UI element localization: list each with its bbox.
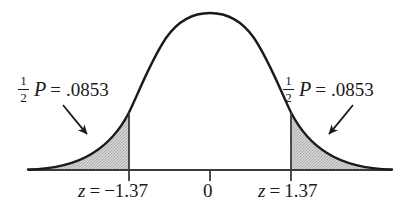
x-tick-label-zero: 0 xyxy=(203,181,213,200)
z-variable: z xyxy=(258,180,265,201)
z-value: 1.37 xyxy=(284,180,317,201)
one-half-fraction: 1 2 xyxy=(18,74,29,104)
equals-sign: = xyxy=(269,180,280,201)
z-value: 0 xyxy=(203,180,213,201)
equals-sign: = xyxy=(89,180,100,201)
fraction-denominator: 2 xyxy=(284,91,293,105)
fraction-numerator: 1 xyxy=(284,74,293,88)
z-value: −1.37 xyxy=(104,180,148,201)
left-leader-arrow-icon xyxy=(63,105,87,134)
probability-value: .0853 xyxy=(331,80,374,99)
fraction-numerator: 1 xyxy=(19,74,28,88)
equals-sign: = xyxy=(315,80,326,99)
one-half-fraction: 1 2 xyxy=(283,74,294,104)
right-leader-arrow-icon xyxy=(329,105,353,134)
right-tail-probability-label: 1 2 P = .0853 xyxy=(283,74,374,104)
normal-curve-figure: 1 2 P = .0853 1 2 P = .0853 z=−1.37 0 z=… xyxy=(0,0,409,208)
p-variable: P xyxy=(34,79,46,99)
probability-value: .0853 xyxy=(66,80,109,99)
p-variable: P xyxy=(299,79,311,99)
x-tick-label-negative: z=−1.37 xyxy=(78,181,148,200)
fraction-denominator: 2 xyxy=(19,91,28,105)
equals-sign: = xyxy=(50,80,61,99)
x-tick-label-positive: z=1.37 xyxy=(258,181,317,200)
left-tail-probability-label: 1 2 P = .0853 xyxy=(18,74,109,104)
z-variable: z xyxy=(78,180,85,201)
